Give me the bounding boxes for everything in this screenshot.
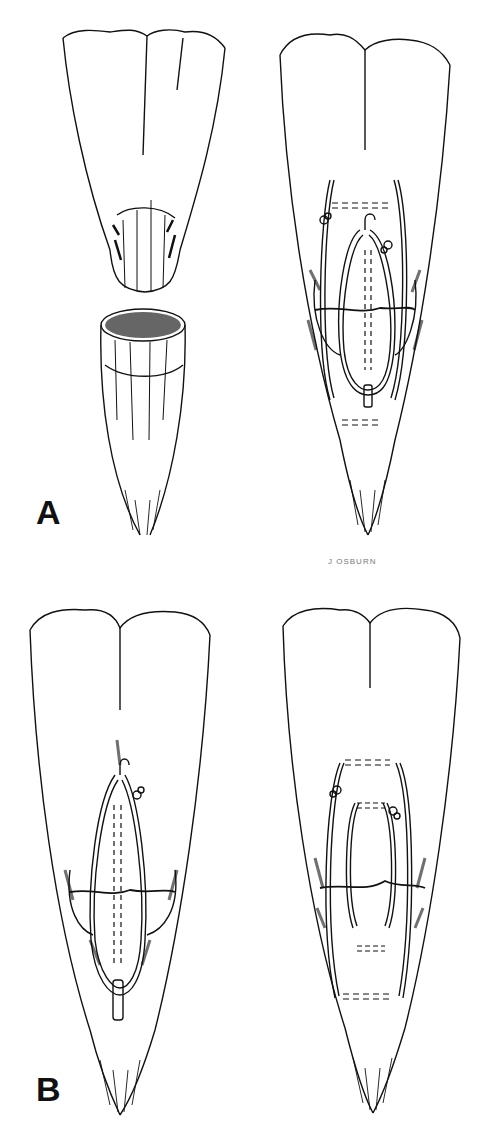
- double-loop-repair-illustration: [275, 598, 470, 1118]
- panel-label-b: B: [36, 1072, 61, 1106]
- medical-illustration-figure: A J OSBURN: [0, 0, 495, 1131]
- panel-a-right-drawing: [270, 20, 460, 540]
- panel-b-right-drawing: [275, 598, 470, 1118]
- separated-tendon-illustration: [55, 20, 235, 550]
- repaired-tendon-illustration-a: [270, 20, 460, 540]
- single-loop-repair-illustration: [25, 600, 225, 1120]
- artist-signature: J OSBURN: [328, 557, 376, 566]
- panel-label-a: A: [36, 495, 61, 529]
- panel-a-left-drawing: [55, 20, 235, 550]
- panel-b-left-drawing: [25, 600, 225, 1120]
